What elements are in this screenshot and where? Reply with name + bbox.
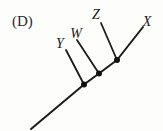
cladogram-figure: (D) Y W Z X	[0, 0, 163, 131]
node-dot-z	[114, 57, 120, 63]
cladogram-svg: (D) Y W Z X	[0, 0, 163, 131]
branch-line-z	[101, 23, 117, 60]
taxon-label-w: W	[70, 26, 83, 41]
taxon-label-z: Z	[92, 7, 100, 22]
taxon-label-x: X	[142, 14, 152, 29]
main-lineage-line	[31, 27, 143, 129]
taxon-label-y: Y	[56, 36, 66, 51]
node-dot-w	[96, 71, 102, 77]
branch-line-y	[66, 50, 84, 85]
branch-line-w	[77, 40, 99, 74]
figure-label: (D)	[12, 13, 33, 30]
node-dot-y	[81, 82, 87, 88]
